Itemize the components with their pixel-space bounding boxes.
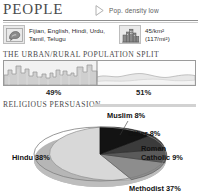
religion-title-rule (93, 104, 196, 107)
languages-line-2: Tamil, Telugu (29, 35, 105, 43)
rural-percent-label: 51% (136, 88, 151, 97)
header-divider (3, 20, 198, 21)
fact-languages-text: Fijian, English, Hindi, Urdu, Tamil, Tel… (29, 25, 105, 44)
pop-density-tag-label: Pop. density low (109, 7, 159, 14)
fact-population-density: 45/km² (117/mi²) (119, 25, 170, 44)
pop-density-tag: Pop. density low (95, 5, 159, 16)
header-divider-secondary (3, 22, 198, 23)
triangle-right-icon (95, 5, 104, 16)
panel-header: PEOPLE Pop. density low (3, 1, 198, 21)
urban-rural-section-title: THE URBAN/RURAL POPULATION SPLIT (3, 50, 159, 59)
pie-label-hindu: Hindu 38% (12, 153, 50, 162)
page-title: PEOPLE (3, 1, 63, 17)
urban-rural-split-chart (3, 60, 196, 86)
density-line-2: (117/mi²) (145, 35, 170, 43)
religion-pie-chart: Muslim 8% Other 8% Roman Catholic 9% Hin… (0, 108, 201, 196)
facts-row: Fijian, English, Hindi, Urdu, Tamil, Tel… (3, 25, 198, 48)
fact-density-text: 45/km² (117/mi²) (145, 25, 170, 44)
urban-rural-labels: 49% 51% (3, 88, 196, 99)
pie-label-muslim: Muslim 8% (107, 111, 145, 120)
pie-label-methodist: Methodist 37% (129, 184, 181, 193)
languages-line-1: Fijian, English, Hindi, Urdu, (29, 27, 105, 34)
fact-languages: Fijian, English, Hindi, Urdu, Tamil, Tel… (3, 25, 105, 44)
buildings-icon (119, 25, 141, 44)
pie-label-roman-catholic: Roman Catholic 9% (141, 144, 183, 162)
urban-percent-label: 49% (46, 88, 61, 97)
speech-bubble-icon (3, 25, 25, 44)
roman-catholic-line-1: Roman (141, 144, 166, 153)
roman-catholic-line-2: Catholic 9% (141, 153, 183, 162)
density-line-1: 45/km² (145, 27, 164, 34)
pie-label-other: Other 8% (128, 129, 160, 138)
country-profile-people-panel: PEOPLE Pop. density low Fijian, E (0, 0, 201, 196)
